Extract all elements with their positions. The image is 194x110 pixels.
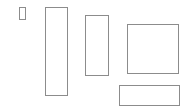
tall-left-box [45, 7, 68, 96]
middle-box [85, 15, 109, 76]
small-box [19, 7, 26, 20]
bottom-wide-box [119, 85, 180, 106]
square-box [127, 24, 179, 74]
